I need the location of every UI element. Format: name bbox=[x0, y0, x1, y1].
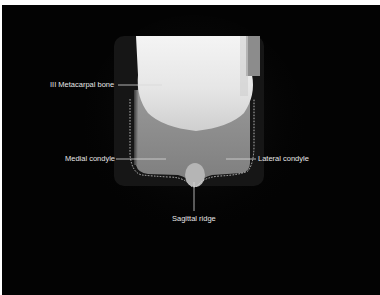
radiograph-image: III Metacarpal bone Medial condyle Later… bbox=[2, 5, 380, 295]
xray-graphic bbox=[2, 5, 380, 295]
label-lateral-condyle: Lateral condyle bbox=[258, 155, 309, 163]
label-iii-metacarpal-bone: III Metacarpal bone bbox=[50, 81, 114, 89]
label-sagittal-ridge: Sagittal ridge bbox=[172, 215, 216, 223]
label-medial-condyle: Medial condyle bbox=[65, 155, 115, 163]
